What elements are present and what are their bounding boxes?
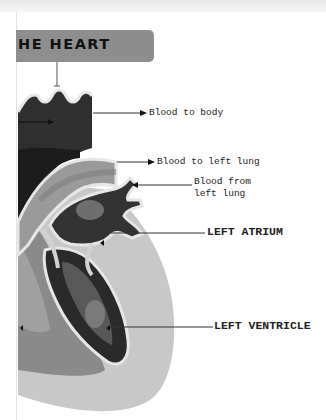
label-blood-to-body: Blood to body xyxy=(149,107,223,119)
label-blood-from-left-lung-line2: left lung xyxy=(194,188,245,200)
label-blood-to-left-lung: Blood to left lung xyxy=(157,156,260,168)
left-ventricle-inner xyxy=(85,300,105,328)
label-left-atrium: LEFT ATRIUM xyxy=(207,226,283,238)
left-atrium-inner xyxy=(76,200,104,220)
heart-diagram xyxy=(0,0,326,420)
label-left-ventricle: LEFT VENTRICLE xyxy=(214,320,311,332)
label-blood-from-left-lung-line1: Blood from xyxy=(194,176,251,188)
